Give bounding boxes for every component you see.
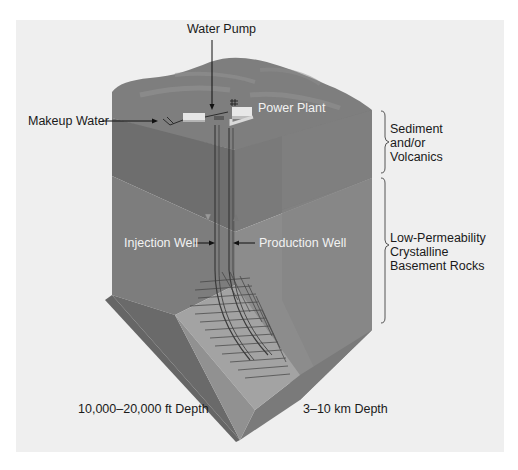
injection-well-label: Injection Well xyxy=(124,236,198,250)
sediment-label: Sediment and/or Volcanics xyxy=(390,122,443,164)
basement-label: Low-Permeability Crystalline Basement Ro… xyxy=(390,231,486,273)
power-plant-label: Power Plant xyxy=(258,101,325,115)
depth-km-label: 3–10 km Depth xyxy=(303,402,388,416)
water-pump-label: Water Pump xyxy=(187,22,256,36)
depth-ft-label: 10,000–20,000 ft Depth xyxy=(78,402,209,416)
basement-brace xyxy=(381,178,389,323)
makeup-water-label: Makeup Water xyxy=(28,114,109,128)
production-well-label: Production Well xyxy=(259,236,346,250)
sediment-brace xyxy=(381,111,389,173)
water-pump-building-icon xyxy=(183,113,205,122)
